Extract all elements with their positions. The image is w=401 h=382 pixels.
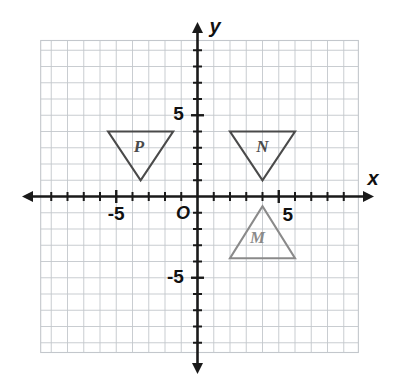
x-tick-label-neg5: -5 xyxy=(108,203,125,224)
shape-label-p: P xyxy=(133,137,145,156)
x-tick-label-5: 5 xyxy=(282,204,293,225)
y-axis-label: y xyxy=(208,15,221,37)
coordinate-plane: PNM xyO-555-5 xyxy=(0,0,401,382)
x-axis-label: x xyxy=(366,167,379,189)
y-tick-label-neg5: -5 xyxy=(167,266,184,287)
y-tick-label-5: 5 xyxy=(173,103,184,124)
shape-label-n: N xyxy=(255,137,269,156)
canvas-background xyxy=(0,0,401,382)
origin-label: O xyxy=(176,203,190,223)
shape-label-m: M xyxy=(249,228,266,247)
